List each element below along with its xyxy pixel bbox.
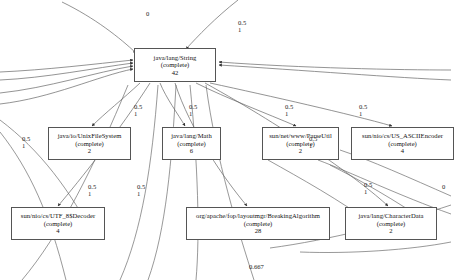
edge-label-low-2: 0.5 1 [137,184,145,198]
node-label-name: sun/net/www/ParseUtil [269,132,332,139]
edge-weight-secondary: 1 [137,191,145,198]
node-label-count: 4 [401,147,404,154]
node-label-state: (complete) [244,220,273,227]
edge-weight-secondary: 1 [309,143,317,150]
node-java-lang-string[interactable]: java/lang/String (complete) 42 [134,48,216,82]
edge-weight-secondary: 1 [88,191,96,198]
node-label-state: (complete) [388,140,417,147]
edge-weight-secondary: 1 [359,111,367,118]
edge-label-mid-3: 0.5 1 [285,104,293,118]
node-label-state: (complete) [177,140,206,147]
edge-label-low-3: 0.5 1 [364,182,372,196]
edge-weight-secondary: 1 [364,189,372,196]
edge-label-mid-4: 0.5 1 [359,104,367,118]
node-label-name: java/lang/CharacterData [358,212,423,219]
edge-label-far-right: 0 [442,184,445,191]
node-label-name: java/io/UnixFileSystem [58,132,122,139]
edge-label-right-edge: 0.5 1 [309,136,317,150]
node-java-lang-characterdata[interactable]: java/lang/CharacterData (complete) 2 [345,207,437,240]
node-java-io-unixfilesystem[interactable]: java/io/UnixFileSystem (complete) 2 [48,127,131,160]
edge-label-low-1: 0.5 1 [88,184,96,198]
node-label-count: 42 [172,69,179,76]
edge-weight-secondary: 1 [285,111,293,118]
edge-weight-primary: 0.667 [249,264,264,271]
node-label-count: 2 [299,147,302,154]
node-sun-net-www-parseutil[interactable]: sun/net/www/ParseUtil (complete) 2 [262,127,339,160]
edge-weight-secondary: 1 [22,143,30,150]
node-org-apache-fop-breakingalgorithm[interactable]: org/apache/fop/layoutmgr/BreakingAlgorit… [186,207,330,240]
node-sun-nio-cs-us-asciiencoder[interactable]: sun/nio/cs/US_ASCIIEncoder (complete) 4 [351,127,454,160]
node-label-state: (complete) [377,220,406,227]
node-label-state: (complete) [75,140,104,147]
edge-label-top-left: 0 [146,11,149,18]
node-label-count: 4 [56,227,59,234]
edge-label-mid-2: 0.5 1 [189,104,197,118]
node-sun-nio-cs-utf8-decoder[interactable]: sun/nio/cs/UTF_8$Decoder (complete) 4 [11,207,105,240]
node-label-name: java/lang/Math [171,132,212,139]
edge-weight-secondary: 1 [134,111,142,118]
edge-weight-secondary: 1 [189,111,197,118]
node-java-lang-math[interactable]: java/lang/Math (complete) 6 [162,127,221,160]
node-label-count: 2 [389,227,392,234]
node-label-count: 28 [255,227,262,234]
edge-weight-primary: 0 [146,11,149,18]
edge-label-mid-1: 0.5 1 [134,104,142,118]
node-label-name: sun/nio/cs/US_ASCIIEncoder [362,132,443,139]
node-label-state: (complete) [44,220,73,227]
edge-weight-secondary: 1 [238,27,246,34]
edge-label-left-edge: 0.5 1 [22,136,30,150]
edge-weight-primary: 0 [442,184,445,191]
node-label-state: (complete) [161,61,190,68]
node-label-count: 6 [190,147,193,154]
edge-label-top-right: 0.5 1 [238,20,246,34]
node-label-name: sun/nio/cs/UTF_8$Decoder [21,212,95,219]
node-label-name: java/lang/String [154,54,197,61]
edge-label-bottom: 0.667 [249,264,264,271]
node-label-count: 2 [88,147,91,154]
node-label-name: org/apache/fop/layoutmgr/BreakingAlgorit… [196,212,320,219]
